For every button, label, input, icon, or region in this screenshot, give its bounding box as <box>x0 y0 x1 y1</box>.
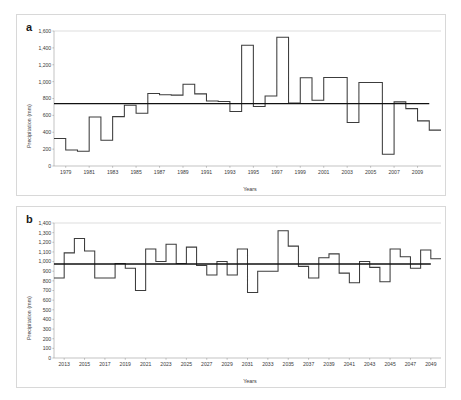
x-tick-label: 2021 <box>140 361 151 367</box>
y-tick-label: 200 <box>43 336 52 342</box>
x-tick-label: 2029 <box>221 361 232 367</box>
x-tick-label: 2013 <box>59 361 70 367</box>
y-tick-label: 1,200 <box>38 239 51 245</box>
x-tick-label: 2033 <box>262 361 273 367</box>
y-tick-label: 100 <box>43 345 52 351</box>
y-tick-label: 1,400 <box>38 220 51 226</box>
x-tick-label: 2043 <box>364 361 375 367</box>
y-tick-label: 300 <box>43 326 52 332</box>
x-tick-label: 2041 <box>344 361 355 367</box>
y-tick-label: 800 <box>43 278 52 284</box>
x-tick-label: 2045 <box>384 361 395 367</box>
y-tick-label: 600 <box>43 297 52 303</box>
y-tick-label: 700 <box>43 287 52 293</box>
x-tick-label: 2035 <box>283 361 294 367</box>
y-tick-label: 1,000 <box>38 258 51 264</box>
y-tick-label: 400 <box>43 316 52 322</box>
x-tick-label: 2039 <box>323 361 334 367</box>
figure-container: a Precipitation (mm) Years 0200400600800… <box>0 0 461 400</box>
x-tick-label: 2047 <box>405 361 416 367</box>
x-tick-label: 2049 <box>425 361 436 367</box>
y-tick-label: 500 <box>43 307 52 313</box>
panel-b-plot: 01002003004005006007008009001,0001,1001,… <box>0 0 461 400</box>
y-tick-label: 900 <box>43 268 52 274</box>
x-tick-label: 2027 <box>201 361 212 367</box>
y-tick-label: 1,100 <box>38 249 51 255</box>
x-tick-label: 2031 <box>242 361 253 367</box>
x-tick-label: 2019 <box>120 361 131 367</box>
x-tick-label: 2037 <box>303 361 314 367</box>
y-tick-label: 0 <box>48 355 51 361</box>
x-tick-label: 2023 <box>160 361 171 367</box>
y-tick-label: 1,300 <box>38 230 51 236</box>
x-tick-label: 2015 <box>79 361 90 367</box>
precipitation-step-line <box>54 231 441 293</box>
x-tick-label: 2017 <box>99 361 110 367</box>
x-tick-label: 2025 <box>181 361 192 367</box>
